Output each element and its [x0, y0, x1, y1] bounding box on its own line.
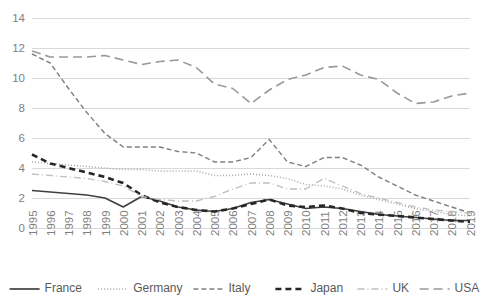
y-axis-tick-label: 10	[12, 72, 25, 84]
y-axis-tick-label: 6	[19, 132, 25, 144]
legend-label-usa[interactable]: USA	[455, 281, 480, 295]
x-axis-tick-label: 1996	[45, 210, 57, 236]
y-axis-tick-label: 8	[19, 102, 25, 114]
x-axis-tick-label: 2017	[428, 210, 440, 236]
x-axis-tick-label: 2006	[227, 210, 239, 236]
legend-label-germany[interactable]: Germany	[133, 281, 182, 295]
x-axis-tick-label: 1997	[63, 210, 75, 236]
x-axis-tick-label: 2010	[300, 210, 312, 236]
x-axis-tick-label: 2016	[410, 210, 422, 236]
x-axis-tick-label: 2018	[446, 210, 458, 236]
x-axis-tick-label: 1999	[100, 210, 112, 236]
chart-canvas: 02468101214 1995199619971998199920002001…	[0, 0, 484, 304]
series-line-usa	[32, 51, 470, 104]
y-axis-tick-label: 0	[19, 222, 25, 234]
x-axis-tick-label: 2009	[282, 210, 294, 236]
legend-label-france[interactable]: France	[45, 281, 83, 295]
legend-label-japan[interactable]: Japan	[310, 281, 343, 295]
x-axis-tick-label: 2001	[136, 210, 148, 236]
x-axis-tick-label: 1995	[27, 210, 39, 236]
x-axis-tick-label: 2011	[319, 211, 331, 236]
data-series-group	[32, 51, 470, 222]
series-line-germany	[32, 162, 470, 216]
legend-label-uk[interactable]: UK	[392, 281, 409, 295]
y-axis-tick-labels: 02468101214	[12, 12, 25, 234]
x-axis-tick-label: 2012	[337, 210, 349, 236]
x-axis-tick-label: 2015	[392, 210, 404, 236]
y-axis-tick-label: 4	[19, 162, 26, 174]
x-axis-tick-label: 2005	[209, 210, 221, 236]
y-axis-tick-label: 14	[12, 12, 25, 24]
series-line-uk	[32, 174, 470, 213]
x-axis-tick-label: 2007	[246, 210, 258, 236]
x-axis-tick-label: 2003	[173, 210, 185, 236]
x-axis-tick-label: 2019	[465, 210, 477, 236]
legend-label-italy[interactable]: Italy	[228, 281, 250, 295]
x-axis-tick-labels: 1995199619971998199920002001200220032004…	[27, 210, 477, 236]
x-axis-tick-label: 1998	[81, 210, 93, 236]
x-axis-tick-label: 2008	[264, 210, 276, 236]
x-axis-tick-label: 2002	[154, 210, 166, 236]
y-axis-tick-label: 2	[19, 192, 25, 204]
y-axis-tick-label: 12	[12, 42, 25, 54]
line-chart: 02468101214 1995199619971998199920002001…	[0, 0, 484, 304]
x-axis-tick-label: 2000	[118, 210, 130, 236]
x-axis-tick-label: 2004	[191, 210, 203, 236]
chart-legend: FranceGermanyItalyJapanUKUSA	[10, 281, 480, 295]
